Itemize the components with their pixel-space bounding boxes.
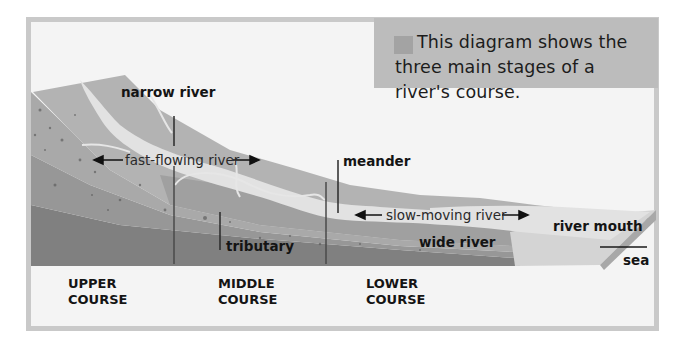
label-slow-moving-river: slow-moving river [386, 207, 507, 223]
lower-course-line1: LOWER [366, 276, 425, 292]
label-tributary: tributary [226, 238, 294, 254]
label-middle-course: MIDDLE COURSE [218, 276, 277, 308]
upper-course-line1: UPPER [68, 276, 127, 292]
middle-course-line1: MIDDLE [218, 276, 277, 292]
lower-course-line2: COURSE [366, 292, 425, 308]
upper-course-line2: COURSE [68, 292, 127, 308]
label-sea: sea [623, 252, 649, 268]
caption-text: This diagram shows the three main stages… [395, 30, 655, 105]
label-river-mouth: river mouth [553, 218, 643, 234]
label-wide-river: wide river [419, 234, 496, 250]
label-meander: meander [343, 153, 410, 169]
label-fast-flowing-river: fast-flowing river [125, 152, 239, 168]
label-upper-course: UPPER COURSE [68, 276, 127, 308]
label-lower-course: LOWER COURSE [366, 276, 425, 308]
label-narrow-river: narrow river [121, 84, 215, 100]
middle-course-line2: COURSE [218, 292, 277, 308]
